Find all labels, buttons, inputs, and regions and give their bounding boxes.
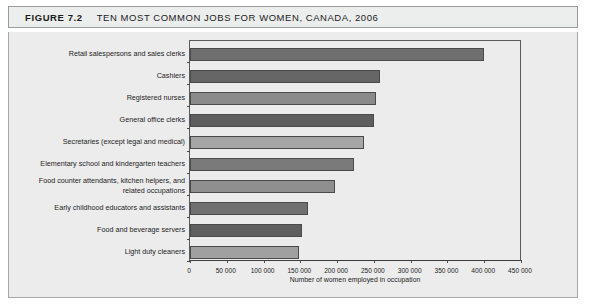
bar bbox=[190, 202, 308, 215]
y-axis-tick bbox=[187, 151, 190, 152]
bar-row bbox=[190, 220, 302, 242]
x-axis-tick-label: 50 000 bbox=[216, 267, 236, 274]
chart-panel: Retail salespersons and sales clerksCash… bbox=[8, 32, 578, 298]
bar-row bbox=[190, 87, 376, 109]
x-axis-tick-label: 350 000 bbox=[435, 267, 459, 274]
bar-row bbox=[190, 154, 354, 176]
y-axis-tick bbox=[187, 106, 190, 107]
category-label: Elementary school and kindergarten teach… bbox=[15, 159, 189, 168]
bar-row bbox=[190, 176, 335, 198]
category-label: Retail salespersons and sales clerks bbox=[15, 49, 189, 58]
x-axis-tick-label: 150 000 bbox=[287, 267, 311, 274]
bar bbox=[190, 158, 354, 171]
category-label: Food counter attendants, kitchen helpers… bbox=[15, 176, 189, 195]
category-axis-labels: Retail salespersons and sales clerksCash… bbox=[9, 40, 189, 261]
bar bbox=[190, 114, 374, 127]
y-axis-tick bbox=[187, 84, 190, 85]
category-label: Early childhood educators and assistants bbox=[15, 203, 189, 212]
bar bbox=[190, 70, 380, 83]
bar bbox=[190, 224, 302, 237]
y-axis-tick bbox=[187, 239, 190, 240]
y-axis-tick bbox=[187, 217, 190, 218]
x-axis-tick bbox=[521, 260, 522, 263]
bar-row bbox=[190, 198, 308, 220]
bar bbox=[190, 180, 335, 193]
y-axis-tick bbox=[187, 62, 190, 63]
bar-row bbox=[190, 131, 364, 153]
category-label: Secretaries (except legal and medical) bbox=[15, 137, 189, 146]
x-axis-tick-labels: 050 000100 000150 000200 000250 000300 0… bbox=[189, 261, 521, 275]
bar bbox=[190, 92, 376, 105]
figure-container: FIGURE 7.2 TEN MOST COMMON JOBS FOR WOME… bbox=[0, 0, 600, 306]
category-label: Light duty cleaners bbox=[15, 247, 189, 256]
figure-title: TEN MOST COMMON JOBS FOR WOMEN, CANADA, … bbox=[97, 12, 379, 23]
figure-number: FIGURE 7.2 bbox=[25, 12, 83, 23]
x-axis-tick-label: 400 000 bbox=[471, 267, 495, 274]
y-axis-tick bbox=[187, 128, 190, 129]
category-label: Cashiers bbox=[15, 71, 189, 80]
x-axis-tick-label: 450 000 bbox=[508, 267, 532, 274]
figure-title-bar: FIGURE 7.2 TEN MOST COMMON JOBS FOR WOME… bbox=[8, 6, 578, 28]
category-label: Food and beverage servers bbox=[15, 225, 189, 234]
category-label: General office clerks bbox=[15, 115, 189, 124]
x-axis-tick-label: 100 000 bbox=[251, 267, 275, 274]
bar bbox=[190, 246, 299, 259]
x-axis-tick-label: 300 000 bbox=[398, 267, 422, 274]
category-label: Registered nurses bbox=[15, 93, 189, 102]
plot-area bbox=[189, 40, 521, 261]
y-axis-tick bbox=[187, 173, 190, 174]
bar-row bbox=[190, 65, 380, 87]
y-axis-tick bbox=[187, 195, 190, 196]
x-axis-title: Number of women employed in occupation bbox=[189, 276, 521, 283]
bar-row bbox=[190, 43, 484, 65]
x-axis-tick-label: 250 000 bbox=[361, 267, 385, 274]
bar-row bbox=[190, 109, 374, 131]
x-axis-tick-label: 200 000 bbox=[324, 267, 348, 274]
x-axis-tick-label: 0 bbox=[187, 267, 191, 274]
bar bbox=[190, 136, 364, 149]
bar bbox=[190, 48, 484, 61]
